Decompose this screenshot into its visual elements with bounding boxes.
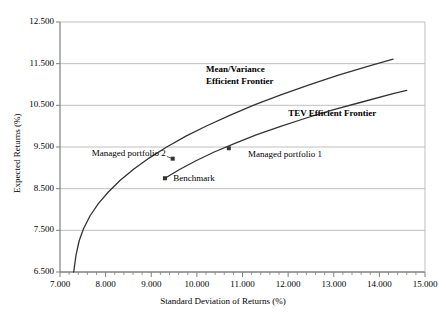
point-label-managed-portfolio-2: Managed portfolio 2 — [0, 148, 166, 158]
series-line-1 — [165, 90, 407, 178]
y-tick-label-1: 7.500 — [8, 224, 54, 234]
data-point-managed-portfolio-1[interactable] — [227, 146, 231, 150]
x-tick-label-4: 11.000 — [220, 279, 266, 289]
x-tick-label-8: 15.000 — [402, 279, 446, 289]
x-tick-label-2: 9.000 — [128, 279, 174, 289]
mv-frontier-label-2: Efficient Frontier — [206, 76, 274, 86]
x-tick-label-3: 10.000 — [174, 279, 220, 289]
x-tick-label-5: 12.000 — [265, 279, 311, 289]
y-tick-label-5: 11.500 — [8, 58, 54, 68]
x-tick-label-1: 8.000 — [83, 279, 129, 289]
chart-figure: 6.5007.5008.5009.50010.50011.50012.5007.… — [0, 0, 446, 320]
efficient-frontier-plot — [0, 0, 446, 320]
y-tick-label-0: 6.500 — [8, 266, 54, 276]
x-tick-label-6: 13.000 — [311, 279, 357, 289]
y-tick-label-6: 12.500 — [8, 16, 54, 26]
tev-frontier-label: TEV Efficient Frontier — [288, 108, 376, 118]
x-tick-label-7: 14.000 — [356, 279, 402, 289]
mv-frontier-label: Mean/Variance — [206, 64, 265, 74]
series-line-0 — [74, 59, 393, 272]
x-axis-title: Standard Deviation of Returns (%) — [0, 296, 446, 306]
data-point-managed-portfolio-2[interactable] — [171, 157, 175, 161]
data-point-benchmark[interactable] — [163, 176, 167, 180]
y-tick-label-4: 10.500 — [8, 99, 54, 109]
point-label-managed-portfolio-1: Managed portfolio 1 — [248, 149, 322, 159]
point-label-benchmark: Benchmark — [173, 173, 214, 183]
x-tick-label-0: 7.000 — [37, 279, 83, 289]
